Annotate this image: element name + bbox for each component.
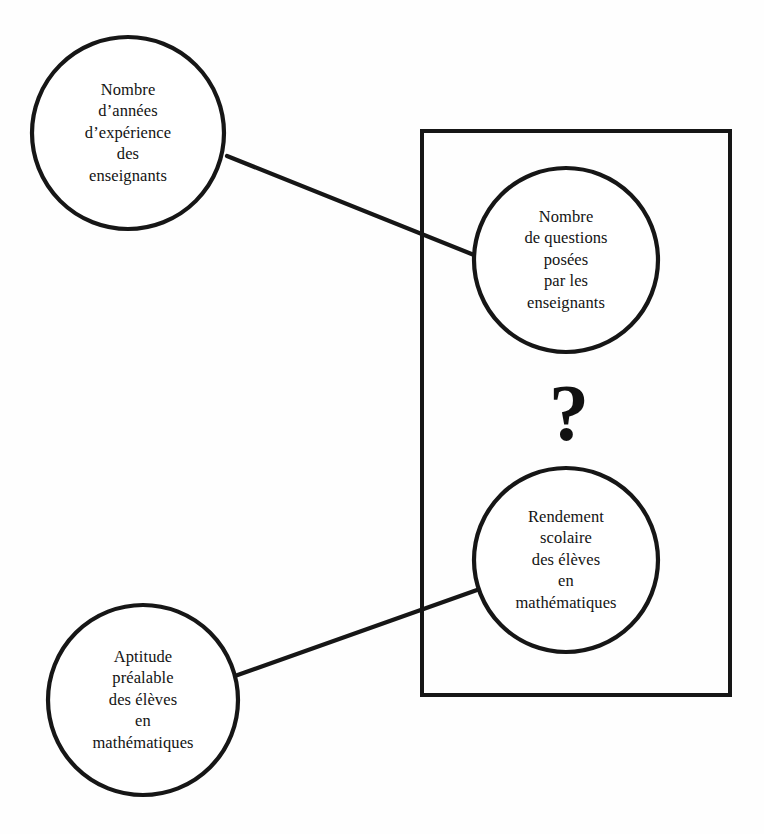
diagram-graphics (0, 0, 764, 834)
node-circle-rendement (474, 468, 658, 652)
diagram-canvas: Nombre d’années d’expérience des enseign… (0, 0, 764, 834)
node-circle-questions (474, 168, 658, 352)
node-circle-experience (32, 37, 224, 229)
edge-experience-to-questions (227, 156, 474, 255)
question-mark-annotation: ? (549, 373, 589, 453)
edge-aptitude-to-rendement (232, 590, 477, 677)
node-circle-aptitude (48, 605, 238, 795)
